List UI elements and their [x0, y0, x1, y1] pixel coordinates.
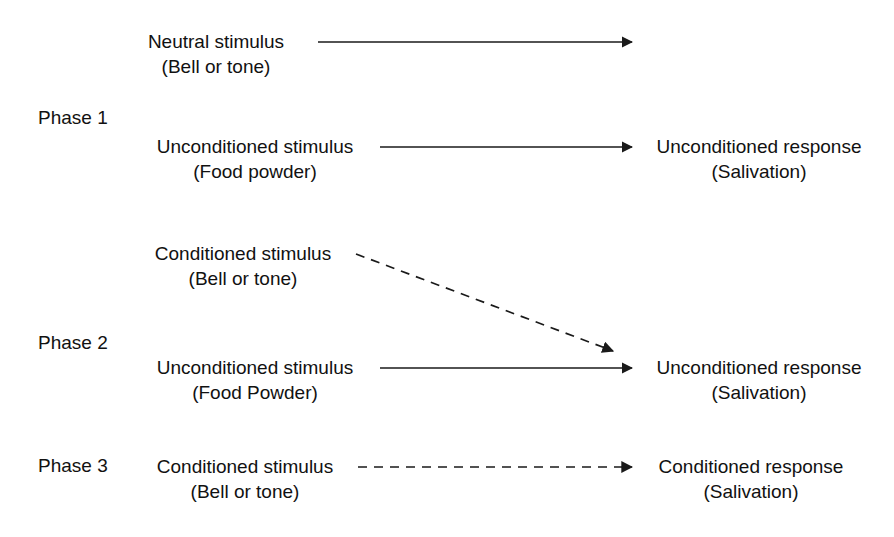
phase-2-conditioned-stimulus-line2: (Bell or tone): [136, 266, 350, 291]
phase-2-conditioned-stimulus: Conditioned stimulus (Bell or tone): [136, 241, 350, 291]
phase-1-neutral-stimulus-line2: (Bell or tone): [118, 54, 314, 79]
phase-3-conditioned-response-line2: (Salivation): [641, 479, 861, 504]
phase-2-unconditioned-response-line1: Unconditioned response: [641, 355, 877, 380]
phase-3-conditioned-response-line1: Conditioned response: [641, 454, 861, 479]
phase-2-conditioned-stimulus-line1: Conditioned stimulus: [136, 241, 350, 266]
phase-2-unconditioned-stimulus-line1: Unconditioned stimulus: [135, 355, 375, 380]
phase-3-conditioned-stimulus-line2: (Bell or tone): [138, 479, 352, 504]
phase-2-unconditioned-stimulus: Unconditioned stimulus (Food Powder): [135, 355, 375, 405]
phase-3-conditioned-response: Conditioned response (Salivation): [641, 454, 861, 504]
phase-1-unconditioned-stimulus-line2: (Food powder): [135, 159, 375, 184]
phase-1-unconditioned-response: Unconditioned response (Salivation): [641, 134, 877, 184]
phase-2-unconditioned-stimulus-line2: (Food Powder): [135, 380, 375, 405]
phase-2-label: Phase 2: [38, 331, 158, 355]
phase-1-label: Phase 1: [38, 106, 158, 130]
phase-1-neutral-stimulus-line1: Neutral stimulus: [118, 29, 314, 54]
phase-3-conditioned-stimulus-line1: Conditioned stimulus: [138, 454, 352, 479]
phase-2-conditioned-stimulus-arrow: [356, 254, 613, 351]
phase-1-unconditioned-stimulus: Unconditioned stimulus (Food powder): [135, 134, 375, 184]
phase-1-unconditioned-response-line2: (Salivation): [641, 159, 877, 184]
phase-1-unconditioned-response-line1: Unconditioned response: [641, 134, 877, 159]
phase-3-conditioned-stimulus: Conditioned stimulus (Bell or tone): [138, 454, 352, 504]
phase-1-neutral-stimulus: Neutral stimulus (Bell or tone): [118, 29, 314, 79]
classical-conditioning-diagram: Phase 1 Neutral stimulus (Bell or tone) …: [0, 0, 894, 537]
phase-2-unconditioned-response-line2: (Salivation): [641, 380, 877, 405]
phase-2-unconditioned-response: Unconditioned response (Salivation): [641, 355, 877, 405]
phase-1-unconditioned-stimulus-line1: Unconditioned stimulus: [135, 134, 375, 159]
